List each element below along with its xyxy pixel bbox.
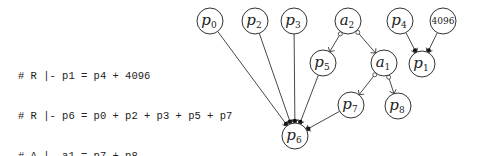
node-p5: p5 bbox=[310, 50, 336, 76]
node-a2: a2 bbox=[335, 8, 361, 34]
edge-a1-p8 bbox=[387, 75, 397, 93]
edge-p5-p6 bbox=[298, 75, 319, 124]
edge-p7-p6 bbox=[306, 111, 340, 131]
node-p4: p4 bbox=[387, 8, 413, 34]
node-p7: p7 bbox=[338, 92, 364, 118]
edge-a2-a1 bbox=[356, 30, 376, 53]
graph-nodes: p0p2p3a2p44096p5a1p1p7p8p6 bbox=[197, 8, 456, 149]
node-p6: p6 bbox=[282, 123, 308, 149]
edge-a1-p7 bbox=[358, 73, 376, 95]
edge-4096-p1 bbox=[426, 33, 437, 53]
node-p3: p3 bbox=[281, 8, 307, 34]
node-p1: p1 bbox=[409, 51, 435, 77]
node-label: 4096 bbox=[432, 16, 455, 26]
edge-p0-p6 bbox=[218, 31, 289, 126]
node-4096: 4096 bbox=[430, 8, 456, 34]
edge-a2-p5 bbox=[328, 32, 342, 52]
node-p2: p2 bbox=[242, 8, 268, 34]
node-p8: p8 bbox=[385, 93, 411, 119]
node-p0: p0 bbox=[197, 8, 223, 34]
edge-p4-p1 bbox=[406, 33, 418, 53]
dependency-graph: p0p2p3a2p44096p5a1p1p7p8p6 bbox=[0, 0, 482, 156]
node-a1: a1 bbox=[371, 50, 397, 76]
edge-p3-p6 bbox=[291, 34, 298, 123]
